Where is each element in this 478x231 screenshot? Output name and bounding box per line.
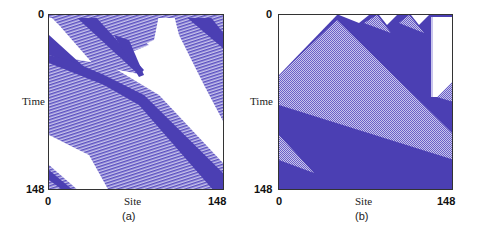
x-tick-right-b: 148 [437, 196, 455, 207]
caption-b: (b) [355, 211, 368, 222]
x-axis-label-a: Site [124, 196, 141, 207]
caption-a: (a) [122, 211, 135, 222]
x-tick-right-a: 148 [208, 196, 226, 207]
spacetime-plot-b [279, 15, 453, 190]
y-axis-label-a: Time [22, 96, 45, 107]
y-tick-top-a: 0 [38, 9, 44, 20]
x-axis-label-b: Site [355, 196, 372, 207]
y-tick-bottom-b: 148 [254, 184, 272, 195]
spacetime-diagram-b [278, 14, 453, 190]
x-tick-left-b: 0 [276, 196, 282, 207]
y-tick-bottom-a: 148 [26, 184, 44, 195]
y-tick-top-b: 0 [266, 9, 272, 20]
spacetime-diagram-a [48, 14, 224, 190]
x-tick-left-a: 0 [45, 196, 51, 207]
spacetime-plot-a [49, 15, 224, 190]
y-axis-label-b: Time [250, 96, 273, 107]
